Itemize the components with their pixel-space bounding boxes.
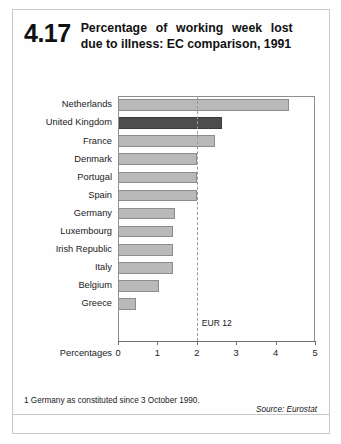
- x-tick-label: 4: [273, 348, 278, 358]
- x-tick: [197, 341, 198, 345]
- figure-number: 4.17: [24, 20, 71, 46]
- bar-track: [118, 186, 315, 204]
- figure-title: Percentage of working week lost due to i…: [81, 20, 293, 52]
- bar-row: Irish Republic: [24, 241, 320, 259]
- eur12-reference-line: [197, 96, 198, 341]
- bar-denmark: [118, 153, 197, 165]
- x-tick: [276, 341, 277, 345]
- bar-track: [118, 205, 315, 223]
- bar-row: United Kingdom: [24, 114, 320, 132]
- bar-label-france: France: [24, 137, 118, 146]
- bar-row: Belgium: [24, 277, 320, 295]
- bar-track: [118, 168, 315, 186]
- x-axis: 012345: [118, 341, 315, 371]
- x-tick: [236, 341, 237, 345]
- bar-label-netherlands: Netherlands: [24, 100, 118, 109]
- bar-belgium: [118, 280, 159, 292]
- bar-track: [118, 295, 315, 313]
- x-tick-label: 5: [312, 348, 317, 358]
- bar-spain: [118, 190, 197, 202]
- bar-row: Denmark: [24, 150, 320, 168]
- bar-france: [118, 135, 215, 147]
- bar-track: [118, 277, 315, 295]
- bar-row: Italy: [24, 259, 320, 277]
- source-divider: [13, 414, 329, 415]
- bar-label-belgium: Belgium: [24, 281, 118, 290]
- bar-row: Portugal: [24, 168, 320, 186]
- bar-track: [118, 223, 315, 241]
- bar-label-italy: Italy: [24, 263, 118, 272]
- bar-luxembourg: [118, 226, 173, 238]
- bar-portugal: [118, 172, 197, 184]
- x-tick: [157, 341, 158, 345]
- x-tick-label: 0: [115, 348, 120, 358]
- bar-track: [118, 114, 315, 132]
- bar-row: Germany: [24, 205, 320, 223]
- bar-row: France: [24, 132, 320, 150]
- bar-label-germany: Germany: [24, 209, 118, 218]
- bar-label-irish-republic: Irish Republic: [24, 245, 118, 254]
- bar-irish-republic: [118, 244, 173, 256]
- bar-track: [118, 132, 315, 150]
- footnote: 1 Germany as constituted since 3 October…: [24, 396, 200, 405]
- eur12-label: EUR 12: [202, 318, 232, 328]
- bar-row: Luxembourg: [24, 223, 320, 241]
- source-note: Source: Eurostat: [256, 405, 317, 414]
- x-tick: [118, 341, 119, 345]
- x-tick: [315, 341, 316, 345]
- bar-label-portugal: Portugal: [24, 173, 118, 182]
- bar-germany: [118, 208, 175, 220]
- figure-header: 4.17 Percentage of working week lost due…: [24, 20, 320, 52]
- bar-italy: [118, 262, 173, 274]
- bar-netherlands: [118, 99, 289, 111]
- x-tick-label: 2: [194, 348, 199, 358]
- bar-track: [118, 241, 315, 259]
- bar-row: Spain: [24, 186, 320, 204]
- x-axis-line: [118, 341, 315, 342]
- bar-label-united-kingdom: United Kingdom: [24, 118, 118, 127]
- bar-greece: [118, 298, 136, 310]
- bar-track: [118, 150, 315, 168]
- bar-track: [118, 259, 315, 277]
- bar-row: Greece: [24, 295, 320, 313]
- chart-area: NetherlandsUnited KingdomFranceDenmarkPo…: [24, 96, 320, 376]
- bar-label-spain: Spain: [24, 191, 118, 200]
- x-tick-label: 3: [234, 348, 239, 358]
- bar-row: Netherlands: [24, 96, 320, 114]
- figure-page: 4.17 Percentage of working week lost due…: [0, 0, 341, 444]
- bar-label-greece: Greece: [24, 299, 118, 308]
- bar-united-kingdom: [118, 117, 222, 129]
- bar-track: [118, 96, 315, 114]
- bar-label-denmark: Denmark: [24, 155, 118, 164]
- bar-rows: NetherlandsUnited KingdomFranceDenmarkPo…: [24, 96, 320, 313]
- x-tick-label: 1: [155, 348, 160, 358]
- bar-label-luxembourg: Luxembourg: [24, 227, 118, 236]
- x-axis-title: Percentages: [24, 348, 112, 358]
